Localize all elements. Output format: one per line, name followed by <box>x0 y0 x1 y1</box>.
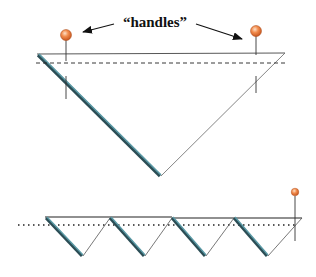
row-triangle-3 <box>172 217 234 256</box>
arrow-to-right-handle <box>196 24 242 39</box>
row-triangle-1 <box>46 217 110 256</box>
left-handle-ball-icon[interactable] <box>61 30 72 41</box>
handles-diagram: “handles” <box>0 0 316 277</box>
right-edge <box>161 53 285 176</box>
right-handle-ball-icon[interactable] <box>251 26 262 37</box>
folded-left-edge-highlight <box>39 54 161 175</box>
top-edge <box>37 53 285 54</box>
handles-label: “handles” <box>123 14 187 30</box>
arrow-to-left-handle <box>83 24 114 32</box>
folded-left-edge <box>38 55 160 176</box>
bottom-handle-ball-icon[interactable] <box>291 188 299 196</box>
row-triangle-2 <box>110 217 172 256</box>
bottom-triangle-row <box>18 188 302 256</box>
top-triangle-figure <box>36 26 285 177</box>
bottom-right-handle[interactable] <box>291 188 299 241</box>
right-handle[interactable] <box>251 26 262 94</box>
row-triangle-4 <box>234 217 302 256</box>
